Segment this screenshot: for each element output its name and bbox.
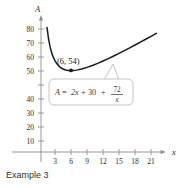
x-axis-label: x	[171, 147, 176, 157]
figure-container: A x 80 70 60 50 40 30 20 10	[0, 0, 185, 188]
y-tick-label: 20	[27, 123, 35, 132]
figure-caption: Example 3	[6, 170, 49, 180]
y-tick-label: 50	[27, 67, 35, 76]
x-tick-label: 9	[85, 157, 89, 166]
y-axis-label: A	[34, 4, 41, 14]
equation-term2: 30	[88, 88, 96, 97]
y-tick-label: 60	[27, 53, 35, 62]
x-tick-label: 6	[69, 157, 73, 166]
y-tick-label: 70	[27, 39, 35, 48]
x-tick-label: 15	[115, 157, 123, 166]
equation-plus2: +	[101, 88, 106, 97]
x-tick-label: 18	[131, 157, 139, 166]
x-tick-label: 21	[147, 157, 155, 166]
minimum-point-marker	[69, 69, 73, 73]
x-tick-label: 3	[53, 157, 57, 166]
y-tick-label: 80	[27, 25, 35, 34]
callout-leader-line	[104, 64, 119, 80]
graph-plot: A x 80 70 60 50 40 30 20 10	[0, 0, 185, 168]
minimum-point-label: (6, 54)	[57, 56, 80, 66]
y-axis-arrow	[39, 15, 43, 20]
equation-plus1: +	[81, 88, 86, 97]
x-axis-arrow	[161, 150, 166, 154]
y-tick-label: 10	[27, 137, 35, 146]
equation-equals: =	[62, 88, 67, 97]
x-tick-label: 12	[99, 157, 107, 166]
equation-lhs: A	[54, 88, 61, 97]
equation-term1: 2x	[71, 88, 79, 97]
equation-numerator: 72	[113, 86, 121, 94]
y-tick-label: 30	[27, 109, 35, 118]
y-tick-label: 40	[27, 95, 35, 104]
